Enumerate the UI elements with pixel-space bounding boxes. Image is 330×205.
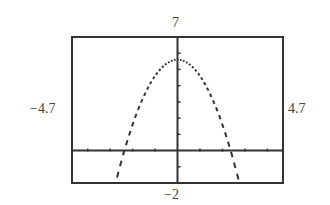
xmax-label: 4.7 — [288, 102, 306, 116]
xmin-label: −4.7 — [30, 102, 55, 116]
ymax-label: 7 — [172, 16, 179, 30]
ymin-label: −2 — [164, 188, 179, 202]
